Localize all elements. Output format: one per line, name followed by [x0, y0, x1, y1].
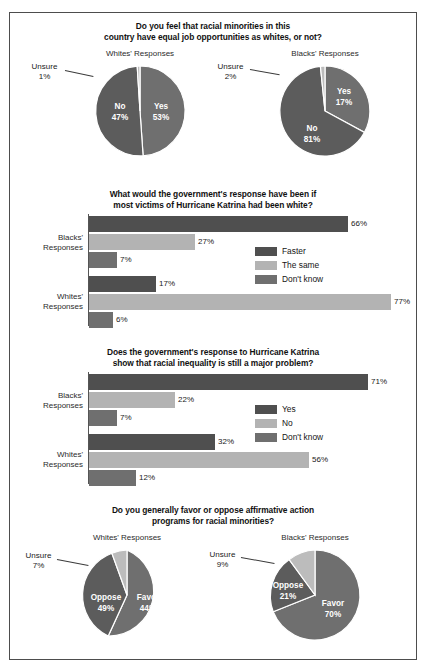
chart2-bar-whites-faster — [89, 276, 156, 292]
chart2-bar-whites-thesame — [89, 294, 391, 310]
chart1-whites-yes-value: 53% — [153, 113, 170, 122]
chart2-group-whites-line2: Responses — [43, 302, 83, 311]
chart4-pie-whites-svg: Oppose 49% Favor 44% — [79, 547, 175, 643]
chart2-val-whites-faster: 17% — [159, 279, 175, 288]
chart1-pie-blacks: Yes 17% No 81% — [277, 63, 373, 159]
chart1-blacks-no-label: No — [307, 124, 318, 133]
chart3-val-whites-dontknow: 12% — [139, 473, 155, 482]
chart1-whites-unsure-label: Unsure 1% — [22, 62, 67, 82]
chart1-whites-no-value: 47% — [112, 113, 129, 122]
chart2-title-line1: What would the government's response hav… — [10, 189, 416, 200]
chart4-pie2-subtitle: Blacks' Responses — [255, 533, 375, 542]
chart4-pie-whites: Oppose 49% Favor 44% — [79, 547, 175, 643]
chart1-whites-unsure-text: Unsure — [32, 62, 58, 71]
chart1-pie1-subtitle: Whites' Responses — [80, 49, 200, 58]
chart2-legend-label-dontknow: Don't know — [282, 274, 323, 284]
chart3-legend-swatch-yes — [255, 405, 277, 414]
chart4-pie-blacks: Oppose 21% Favor 70% — [267, 547, 363, 643]
pie-slices — [280, 66, 370, 156]
chart3-bar-whites-no — [89, 452, 309, 468]
chart3-bar-blacks-no — [89, 392, 175, 408]
chart4-whites-favor-label: Favor — [137, 593, 160, 602]
chart1-whites-no-label: No — [115, 102, 126, 111]
chart3-group-label-whites: Whites' Responses — [15, 450, 83, 469]
chart4-pie1-subtitle: Whites' Responses — [67, 533, 187, 542]
chart4-blacks-favor-value: 70% — [325, 610, 342, 619]
chart2-bar-whites-dontknow — [89, 312, 113, 328]
chart3-group-whites-line1: Whites' — [57, 450, 83, 459]
chart3-title-line2: show that racial inequality is still a m… — [10, 358, 416, 369]
chart2-group-label-blacks: Blacks' Responses — [15, 233, 83, 252]
chart2-legend-swatch-dontknow — [255, 275, 277, 284]
chart4-whites-unsure-text: Unsure — [26, 551, 52, 560]
chart1-blacks-unsure-leader — [250, 69, 280, 75]
chart3-bar-blacks-yes — [89, 374, 368, 390]
chart3-group-blacks-line1: Blacks' — [58, 391, 83, 400]
chart1-pie-whites: No 47% Yes 53% — [92, 63, 188, 159]
chart2-legend-swatch-thesame — [255, 261, 277, 270]
chart3-val-whites-no: 56% — [312, 455, 328, 464]
chart4-whites-oppose-value: 49% — [98, 604, 115, 613]
chart4-whites-unsure-label: Unsure 7% — [16, 551, 61, 571]
chart2-val-whites-dontknow: 6% — [116, 315, 128, 324]
chart3-legend-swatch-dontknow — [255, 433, 277, 442]
chart-equal-job-opportunities: Do you feel that racial minorities in th… — [10, 21, 416, 181]
chart1-whites-unsure-value: 1% — [39, 72, 51, 81]
chart1-title-line2: country have equal job opportunities as … — [10, 32, 416, 43]
chart1-blacks-unsure-value: 2% — [225, 72, 237, 81]
chart1-blacks-yes-label: Yes — [337, 87, 352, 96]
chart3-val-whites-yes: 32% — [218, 437, 234, 446]
chart4-whites-unsure-value: 7% — [33, 561, 45, 570]
chart4-pie-blacks-svg: Oppose 21% Favor 70% — [267, 547, 363, 643]
chart4-blacks-unsure-label: Unsure 9% — [200, 550, 245, 570]
chart3-legend-label-no: No — [282, 418, 293, 428]
chart2-group-blacks-line2: Responses — [43, 243, 83, 252]
chart3-bar-whites-yes — [89, 434, 215, 450]
chart4-whites-favor-value: 44% — [140, 604, 157, 613]
chart3-val-blacks-no: 22% — [178, 395, 194, 404]
chart2-group-label-whites: Whites' Responses — [15, 292, 83, 311]
chart1-blacks-unsure-text: Unsure — [218, 62, 244, 71]
chart2-title-line2: most victims of Hurricane Katrina had be… — [10, 200, 416, 211]
chart2-bar-blacks-faster — [89, 216, 348, 232]
chart2-group-whites-line1: Whites' — [57, 292, 83, 301]
chart4-blacks-favor-label: Favor — [322, 599, 345, 608]
slice-no — [96, 66, 143, 156]
chart1-blacks-yes-value: 17% — [336, 98, 353, 107]
chart3-legend-swatch-no — [255, 419, 277, 428]
chart2-legend-label-faster: Faster — [282, 246, 306, 256]
chart1-pie-whites-svg: No 47% Yes 53% — [92, 63, 188, 159]
figure-frame: Do you feel that racial minorities in th… — [9, 12, 417, 660]
chart3-title-line1: Does the government's response to Hurric… — [10, 347, 416, 358]
chart3-val-blacks-yes: 71% — [371, 377, 387, 386]
chart2-val-blacks-dontknow: 7% — [120, 255, 132, 264]
chart2-val-whites-thesame: 77% — [394, 297, 410, 306]
chart4-blacks-oppose-value: 21% — [280, 592, 297, 601]
chart1-pie-blacks-svg: Yes 17% No 81% — [277, 63, 373, 159]
chart2-legend-swatch-faster — [255, 247, 277, 256]
chart-racial-inequality-major-problem: Does the government's response to Hurric… — [10, 347, 416, 499]
chart2-group-blacks-line1: Blacks' — [58, 233, 83, 242]
chart4-blacks-unsure-value: 9% — [217, 560, 229, 569]
chart2-legend-label-thesame: The same — [282, 260, 319, 270]
chart1-pie2-subtitle: Blacks' Responses — [265, 49, 385, 58]
chart2-val-blacks-faster: 66% — [351, 219, 367, 228]
chart2-val-blacks-thesame: 27% — [198, 237, 214, 246]
chart2-bar-blacks-thesame — [89, 234, 195, 250]
chart4-whites-oppose-label: Oppose — [91, 593, 122, 602]
chart-katrina-response-if-white: What would the government's response hav… — [10, 189, 416, 341]
chart3-val-blacks-dontknow: 7% — [120, 413, 132, 422]
chart3-legend-label-dontknow: Don't know — [282, 432, 323, 442]
chart4-title-line1: Do you generally favor or oppose affirma… — [10, 505, 416, 516]
chart3-group-blacks-line2: Responses — [43, 401, 83, 410]
chart1-whites-yes-label: Yes — [154, 102, 169, 111]
chart1-blacks-no-value: 81% — [304, 135, 321, 144]
chart3-bar-blacks-dontknow — [89, 410, 117, 426]
chart4-blacks-oppose-label: Oppose — [273, 581, 304, 590]
chart3-group-label-blacks: Blacks' Responses — [15, 391, 83, 410]
chart3-bar-whites-dontknow — [89, 470, 136, 486]
chart2-bar-blacks-dontknow — [89, 252, 117, 268]
chart-affirmative-action: Do you generally favor or oppose affirma… — [10, 505, 416, 660]
chart1-title-line1: Do you feel that racial minorities in th… — [10, 21, 416, 32]
chart3-group-whites-line2: Responses — [43, 460, 83, 469]
